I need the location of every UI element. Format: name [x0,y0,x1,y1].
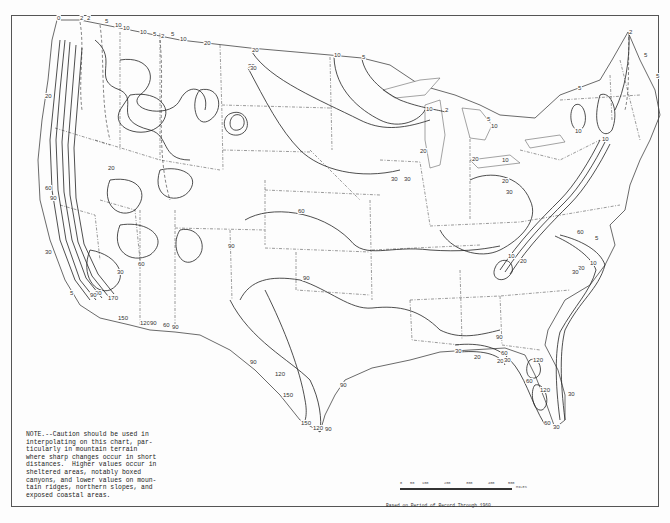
contour-label: 10 [502,157,509,163]
contour-label: 20 [502,178,509,184]
contour-label: 90 [50,195,57,201]
contour-label: 120 [540,387,551,393]
scale-tick: 400 [488,481,494,485]
contour-label: 10 [123,25,130,31]
scale-tick: 100 [422,481,428,485]
contour-label: 10 [180,36,187,42]
contour-label: 90 [250,359,257,365]
contour-label: 10 [575,128,582,134]
contour-label: 10 [334,52,341,58]
contour-label: 20 [204,40,211,46]
contour-label: 10 [590,260,597,266]
contour-label: 120 [313,425,324,431]
contour-label: 10 [508,253,515,259]
contour-label: 60 [163,322,170,328]
scale-tick: 200 [444,481,450,485]
contour-label: 20 [520,258,527,264]
map-sheet: 0225101010525102020303010510251020203010… [0,0,670,523]
scale-units: MILES [516,485,527,489]
contour-label: 10 [140,29,147,35]
contour-label: 60 [501,350,508,356]
contour-label: 30 [455,348,462,354]
contour-label: 60 [544,420,551,426]
isolines [50,32,629,432]
contour-label: 10 [602,136,609,142]
contour-label: 30 [568,391,575,397]
scale-tick: 0 [400,481,402,485]
contour-label: 90 [340,382,347,388]
contour-label: 20 [45,93,52,99]
contour-label: 30 [45,249,52,255]
contour-label: 120 [533,357,544,363]
scale-tick: 300 [466,481,472,485]
contour-label: 60 [45,185,52,191]
contour-label: 30 [250,65,257,71]
coastline [38,20,660,432]
scale-bar: 0 50 100 200 300 400 500 MILES [400,481,530,495]
contour-label: 90 [325,426,332,432]
scale-line [400,488,512,490]
caution-note: NOTE.--Caution should be used in interpo… [26,431,196,499]
contour-label: 60 [526,378,533,384]
scale-tick: 50 [410,481,414,485]
contour-label: 60 [577,229,584,235]
contour-label: 60 [298,208,305,214]
contour-label: 30 [572,269,579,275]
scale-tick: 500 [508,481,514,485]
contour-label: 20 [474,354,481,360]
contour-label: 60 [138,261,145,267]
contour-label: 30 [506,189,513,195]
contour-label: 90 [150,320,157,326]
contour-labels: 0225101010525102020303010510251020203010… [45,15,661,432]
contour-label: 120 [275,371,286,377]
contour-label: 20 [252,47,259,53]
great-lakes [383,78,565,168]
contour-label: 20 [108,165,115,171]
contour-label: 30 [553,424,560,430]
contour-label: 10 [491,123,498,129]
source-note: Based on Period of Record Through 1960. [386,503,494,508]
contour-label: 90 [172,324,179,330]
contour-label: 30 [504,357,511,363]
contour-label: 150 [283,392,294,398]
contour-label: 30 [117,269,124,275]
contour-label: 170 [108,295,119,301]
contour-label: 20 [472,156,479,162]
contour-label: 30 [404,176,411,182]
contour-label: 150 [301,420,312,426]
contour-label: 90 [90,292,97,298]
contour-label: 30 [391,176,398,182]
contour-label: 10 [426,106,433,112]
contour-label: 90 [228,243,235,249]
contour-label: 90 [303,275,310,281]
contour-label: 150 [118,315,129,321]
contour-label: 90 [496,334,503,340]
contour-label: 20 [420,148,427,154]
contour-label: 10 [115,22,122,28]
